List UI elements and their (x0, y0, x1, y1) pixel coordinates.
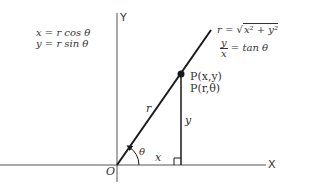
y-axis-label: Y (120, 12, 127, 24)
r-label: r (146, 103, 151, 115)
equation-y: y = r sin θ (36, 38, 88, 50)
equation-tan: yx = tan θ (220, 38, 268, 59)
point-polar-label: P(r,θ) (190, 83, 220, 95)
theta-label: θ (139, 146, 145, 158)
equation-r-radicand: x² + y² (243, 23, 278, 36)
point-p (178, 71, 185, 78)
y-segment-label: y (185, 115, 191, 127)
x-segment-label: x (155, 152, 161, 164)
theta-arc-icon (129, 147, 139, 165)
tan-denominator: x (220, 49, 228, 59)
equation-r: r = √x² + y² (217, 23, 278, 36)
equation-r-lhs: r = (217, 24, 237, 35)
radius-line (117, 30, 211, 165)
tan-fraction: yx (220, 38, 228, 59)
right-angle-marker (174, 158, 181, 165)
tan-rhs: = tan θ (231, 42, 268, 53)
x-axis-label: X (268, 159, 276, 171)
origin-label: O (106, 166, 115, 178)
